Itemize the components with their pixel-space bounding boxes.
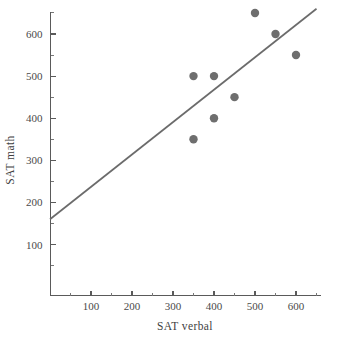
y-tick-label: 300 xyxy=(26,154,43,166)
x-axis-tick-labels: 100200300400500600 xyxy=(83,300,305,312)
data-point xyxy=(271,30,279,38)
y-tick-label: 100 xyxy=(26,239,43,251)
y-tick-label: 500 xyxy=(26,70,43,82)
y-tick-label: 600 xyxy=(26,28,43,40)
x-tick-label: 200 xyxy=(124,300,141,312)
data-point xyxy=(292,51,300,59)
y-axis-tick-labels: 100200300400500600 xyxy=(26,28,43,251)
data-point xyxy=(251,9,259,17)
data-point xyxy=(230,93,238,101)
plot-canvas: 100200300400500600 100200300400500600 SA… xyxy=(0,0,337,340)
y-tick-label: 200 xyxy=(26,196,43,208)
x-tick-label: 600 xyxy=(288,300,305,312)
x-tick-label: 400 xyxy=(206,300,223,312)
data-point xyxy=(189,72,197,80)
data-point xyxy=(210,72,218,80)
x-tick-label: 300 xyxy=(165,300,182,312)
y-axis-ticks xyxy=(51,13,56,266)
x-axis-ticks xyxy=(71,291,317,296)
data-point xyxy=(210,114,218,122)
data-points-group xyxy=(189,9,300,144)
x-tick-label: 100 xyxy=(83,300,100,312)
x-axis-title: SAT verbal xyxy=(157,320,213,332)
x-tick-label: 500 xyxy=(247,300,264,312)
axis-lines xyxy=(51,12,322,296)
regression-trend-line xyxy=(50,9,317,220)
y-axis-title: SAT math xyxy=(4,135,16,184)
y-tick-label: 400 xyxy=(26,112,43,124)
scatter-plot-figure: 100200300400500600 100200300400500600 SA… xyxy=(0,0,337,340)
data-point xyxy=(189,135,197,143)
